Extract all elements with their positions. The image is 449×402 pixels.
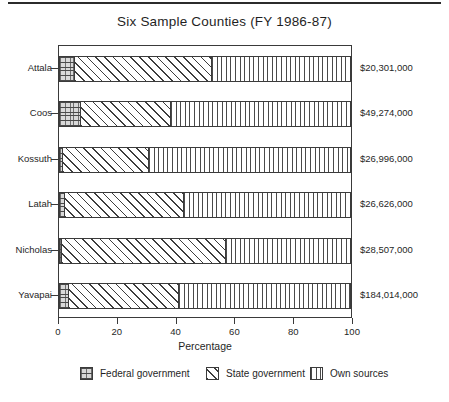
x-tick-label: 20 xyxy=(112,326,123,337)
x-tick-mark xyxy=(58,318,59,324)
bar-segment-own-sources xyxy=(225,238,351,264)
x-tick-mark xyxy=(234,318,235,324)
x-tick-mark xyxy=(293,318,294,324)
y-tick-label-coos: Coos xyxy=(0,107,52,118)
y-tick-mark xyxy=(51,68,58,69)
y-tick-mark xyxy=(51,204,58,205)
bar-segment-own-sources xyxy=(178,283,351,309)
x-tick-label: 100 xyxy=(344,326,360,337)
legend-item-own-sources[interactable]: Own sources xyxy=(310,364,388,382)
bar-row xyxy=(59,283,351,309)
chart-figure: Six Sample Counties (FY 1986-87) AttalaC… xyxy=(0,0,449,402)
legend-swatch-icon xyxy=(80,367,93,380)
bar-segment-state-government xyxy=(74,56,212,82)
y-tick-mark xyxy=(51,295,58,296)
bar-segment-own-sources xyxy=(211,56,351,82)
bar-segment-state-government xyxy=(68,283,178,309)
bar-value-label: $28,507,000 xyxy=(360,244,413,255)
stacked-bar-kossuth xyxy=(59,147,351,173)
y-tick-label-nicholas: Nicholas xyxy=(0,244,52,255)
bar-row xyxy=(59,238,351,264)
x-tick-label: 80 xyxy=(288,326,299,337)
bar-row xyxy=(59,192,351,218)
bar-segment-federal-government xyxy=(59,56,75,82)
x-tick-mark xyxy=(117,318,118,324)
bar-segment-own-sources xyxy=(183,192,351,218)
legend-item-federal-government[interactable]: Federal government xyxy=(80,364,190,382)
stacked-bar-yavapai xyxy=(59,283,351,309)
plot-area xyxy=(58,45,352,318)
bar-segment-state-government xyxy=(62,147,149,173)
y-tick-mark xyxy=(51,113,58,114)
legend-label: Federal government xyxy=(100,368,190,379)
bar-row xyxy=(59,147,351,173)
x-tick-mark xyxy=(176,318,177,324)
bar-segment-state-government xyxy=(64,192,185,218)
bar-value-label: $26,996,000 xyxy=(360,153,413,164)
legend-label: State government xyxy=(226,368,305,379)
stacked-bar-nicholas xyxy=(59,238,351,264)
y-tick-mark xyxy=(51,250,58,251)
x-tick-label: 0 xyxy=(55,326,60,337)
bar-row xyxy=(59,56,351,82)
bar-value-label: $26,626,000 xyxy=(360,198,413,209)
bar-segment-own-sources xyxy=(148,147,351,173)
legend-label: Own sources xyxy=(330,368,388,379)
bar-value-label: $20,301,000 xyxy=(360,62,413,73)
y-tick-label-attala: Attala xyxy=(0,62,52,73)
chart-legend: Federal governmentState governmentOwn so… xyxy=(58,364,398,384)
legend-item-state-government[interactable]: State government xyxy=(206,364,305,382)
y-tick-label-yavapai: Yavapai xyxy=(0,289,52,300)
x-axis-title: Percentage xyxy=(58,340,352,352)
x-tick-label: 60 xyxy=(229,326,240,337)
x-tick-label: 40 xyxy=(170,326,181,337)
legend-swatch-icon xyxy=(310,367,323,380)
bar-segment-state-government xyxy=(61,238,226,264)
legend-swatch-icon xyxy=(206,367,219,380)
bar-segment-own-sources xyxy=(170,101,351,127)
y-tick-label-kossuth: Kossuth xyxy=(0,153,52,164)
stacked-bar-coos xyxy=(59,101,351,127)
y-tick-mark xyxy=(51,159,58,160)
bar-value-label: $184,014,000 xyxy=(360,289,418,300)
bar-segment-federal-government xyxy=(59,101,81,127)
x-tick-mark xyxy=(352,318,353,324)
bar-segment-state-government xyxy=(80,101,171,127)
header-rule xyxy=(8,2,441,4)
stacked-bar-latah xyxy=(59,192,351,218)
bar-row xyxy=(59,101,351,127)
stacked-bar-attala xyxy=(59,56,351,82)
y-tick-label-latah: Latah xyxy=(0,198,52,209)
bar-value-label: $49,274,000 xyxy=(360,107,413,118)
chart-title: Six Sample Counties (FY 1986-87) xyxy=(0,14,449,29)
